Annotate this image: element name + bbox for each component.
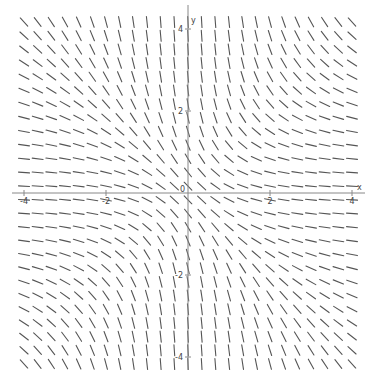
slope-segment — [19, 74, 29, 79]
slope-segment — [101, 171, 112, 174]
slope-segment — [214, 263, 217, 273]
slope-segment — [347, 88, 357, 92]
slope-segment — [347, 74, 357, 79]
slope-segment — [88, 115, 97, 121]
slope-segment — [62, 346, 68, 355]
slope-segment — [88, 278, 96, 285]
slope-segment — [225, 224, 233, 231]
slope-segment — [268, 44, 272, 54]
slope-segment — [333, 172, 344, 173]
slope-segment — [142, 184, 152, 189]
slope-segment — [61, 59, 68, 67]
slope-segment — [60, 130, 70, 133]
slope-segment — [61, 87, 70, 93]
slope-segment — [239, 127, 246, 135]
slope-segment — [143, 141, 150, 149]
slope-segment — [226, 127, 232, 136]
slope-segment — [295, 359, 299, 369]
slope-segment — [159, 99, 162, 110]
slope-segment — [269, 17, 272, 28]
slope-segment — [214, 113, 217, 123]
slope-segment — [211, 183, 220, 189]
slope-segment — [348, 32, 356, 39]
slope-segment — [278, 185, 289, 187]
slope-segment — [174, 85, 176, 96]
y-tick-label: 4 — [178, 25, 183, 34]
slope-segment — [238, 198, 248, 202]
slope-segment — [322, 17, 328, 26]
slope-segment — [73, 226, 84, 228]
slope-segment — [146, 331, 148, 342]
slope-segment — [214, 99, 217, 110]
slope-segment — [160, 331, 161, 342]
slope-segment — [292, 115, 302, 120]
slope-segment — [91, 359, 95, 369]
slope-segment — [228, 331, 230, 342]
slope-segment — [292, 172, 303, 174]
slope-segment — [266, 265, 274, 272]
slope-segment — [227, 263, 232, 273]
slope-segment — [117, 291, 122, 301]
slope-segment — [33, 306, 42, 312]
slope-segment — [266, 114, 274, 121]
slope-segment — [34, 18, 41, 27]
slope-segment — [115, 142, 124, 148]
slope-segment — [333, 199, 344, 200]
slope-segment — [32, 199, 43, 200]
slope-segment — [347, 130, 358, 132]
slope-segment — [306, 116, 316, 120]
slope-segment — [278, 171, 289, 173]
slope-segment — [279, 143, 289, 147]
slope-segment — [75, 59, 82, 68]
slope-segment — [90, 44, 95, 54]
slope-segment — [46, 116, 56, 120]
slope-segment — [308, 359, 313, 369]
slope-segment — [102, 265, 110, 272]
slope-segment — [47, 319, 55, 326]
slope-segment — [238, 142, 246, 149]
slope-segment — [145, 277, 149, 287]
slope-segment — [251, 157, 261, 162]
slope-segment — [253, 114, 260, 122]
slope-segment — [143, 224, 151, 231]
slope-segment — [174, 71, 175, 82]
slope-segment — [118, 44, 121, 55]
slope-segment — [87, 239, 97, 243]
slope-segment — [215, 358, 216, 369]
slope-segment — [319, 116, 329, 120]
slope-segment — [46, 280, 56, 285]
slope-segment — [198, 182, 206, 189]
slope-segment — [319, 240, 330, 242]
slope-segment — [265, 128, 274, 134]
slope-segment — [118, 72, 122, 82]
slope-segment — [265, 185, 276, 187]
slope-segment — [46, 199, 57, 200]
slope-segment — [170, 182, 178, 189]
slope-segment — [130, 264, 136, 273]
slope-segment — [74, 253, 84, 257]
slope-segment — [60, 240, 71, 243]
slope-segment — [32, 253, 43, 255]
slope-segment — [241, 71, 244, 82]
slope-segment — [73, 213, 84, 215]
slope-segment — [335, 32, 342, 40]
slope-segment — [281, 58, 287, 68]
slope-segment — [131, 99, 136, 109]
slope-segment — [238, 170, 248, 175]
slope-segment — [19, 130, 30, 132]
slope-segment — [20, 18, 27, 26]
slope-segment — [101, 143, 111, 148]
slope-segment — [240, 99, 245, 109]
slope-segment — [19, 320, 28, 326]
slope-segment — [241, 318, 244, 329]
slope-segment — [19, 254, 30, 256]
slope-segment — [146, 30, 147, 41]
slope-segment — [319, 266, 329, 270]
slope-segment — [292, 129, 302, 133]
y-axis-label: y — [191, 16, 196, 25]
slope-segment — [348, 18, 355, 26]
slope-segment — [200, 249, 204, 259]
slope-segment — [201, 345, 202, 356]
slope-segment — [319, 253, 330, 256]
slope-segment — [201, 71, 202, 82]
